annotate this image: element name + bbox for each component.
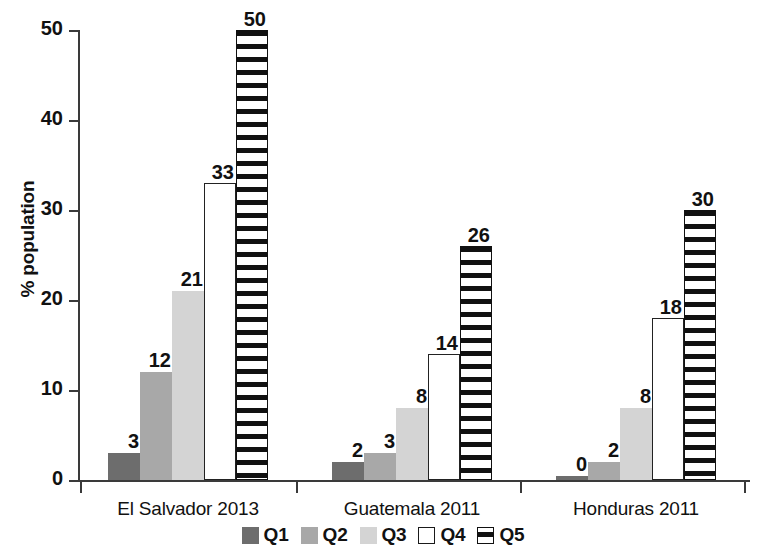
- legend-swatch-q1-icon: [242, 527, 259, 544]
- bar-el-salvador-q1: 3: [108, 453, 140, 480]
- x-tick-left-edge: [80, 482, 82, 493]
- group-label-guatemala: Guatemala 2011: [332, 498, 492, 520]
- bar-value-guatemala-q3: 8: [416, 386, 427, 406]
- bar-el-salvador-q3: 21: [172, 291, 204, 480]
- bar-value-honduras-q5: 30: [692, 189, 714, 209]
- legend-label-q4: Q4: [440, 524, 465, 546]
- y-tick-label-40: 40: [41, 107, 63, 130]
- legend: Q1 Q2 Q3 Q4 Q5: [0, 524, 766, 546]
- group-label-honduras: Honduras 2011: [556, 498, 716, 520]
- y-tick-label-50: 50: [41, 17, 63, 40]
- bar-value-el-salvador-q3: 21: [181, 269, 203, 289]
- y-tick-50: 50: [69, 30, 78, 32]
- x-tick-right-edge: [744, 482, 746, 493]
- bar-value-honduras-q4: 18: [660, 297, 682, 317]
- y-tick-40: 40: [69, 120, 78, 122]
- bar-value-el-salvador-q1: 3: [128, 431, 139, 451]
- bar-value-guatemala-q1: 2: [352, 440, 363, 460]
- y-tick-label-20: 20: [41, 287, 63, 310]
- bar-guatemala-q4: 14: [428, 354, 460, 480]
- y-tick-30: 30: [69, 210, 78, 212]
- bar-el-salvador-q5: 50: [236, 30, 268, 480]
- y-axis-line: [78, 30, 80, 481]
- group-label-el-salvador: El Salvador 2013: [108, 498, 268, 520]
- bar-chart: % population 0 10 20 30 40 50 3: [0, 0, 766, 555]
- y-tick-0: 0: [69, 480, 78, 482]
- bar-honduras-q4: 18: [652, 318, 684, 480]
- y-axis-title: % population: [17, 159, 39, 319]
- legend-swatch-q2-icon: [301, 527, 318, 544]
- y-tick-label-30: 30: [41, 197, 63, 220]
- legend-label-q3: Q3: [382, 524, 407, 546]
- legend-item-q5[interactable]: Q5: [477, 524, 524, 546]
- y-tick-20: 20: [69, 300, 78, 302]
- legend-swatch-q5-icon: [477, 527, 494, 544]
- legend-label-q5: Q5: [499, 524, 524, 546]
- bar-el-salvador-q4: 33: [204, 183, 236, 480]
- y-tick-10: 10: [69, 390, 78, 392]
- legend-swatch-q3-icon: [360, 527, 377, 544]
- bar-guatemala-q5: 26: [460, 246, 492, 480]
- bar-value-guatemala-q5: 26: [468, 225, 490, 245]
- x-tick-group-0-1: [296, 482, 298, 493]
- y-tick-label-0: 0: [52, 467, 63, 490]
- bar-honduras-q1: 0: [556, 476, 588, 480]
- legend-item-q2[interactable]: Q2: [301, 524, 348, 546]
- bar-value-el-salvador-q2: 12: [149, 350, 171, 370]
- legend-label-q2: Q2: [323, 524, 348, 546]
- bar-guatemala-q3: 8: [396, 408, 428, 480]
- legend-item-q1[interactable]: Q1: [242, 524, 289, 546]
- legend-swatch-q4-icon: [418, 527, 435, 544]
- bar-value-el-salvador-q4: 33: [212, 162, 234, 182]
- bar-honduras-q5: 30: [684, 210, 716, 480]
- plot-area: 0 10 20 30 40 50 3 12 21: [78, 30, 750, 481]
- bar-value-honduras-q2: 2: [608, 440, 619, 460]
- bar-el-salvador-q2: 12: [140, 372, 172, 480]
- x-tick-group-1-2: [520, 482, 522, 493]
- bar-guatemala-q2: 3: [364, 453, 396, 480]
- bar-honduras-q2: 2: [588, 462, 620, 480]
- bar-value-honduras-q1: 0: [576, 454, 587, 474]
- bar-value-el-salvador-q5: 50: [244, 9, 266, 29]
- bar-honduras-q3: 8: [620, 408, 652, 480]
- bar-value-honduras-q3: 8: [640, 386, 651, 406]
- legend-item-q3[interactable]: Q3: [360, 524, 407, 546]
- bar-value-guatemala-q2: 3: [384, 431, 395, 451]
- legend-item-q4[interactable]: Q4: [418, 524, 465, 546]
- legend-label-q1: Q1: [264, 524, 289, 546]
- x-axis-line: [78, 480, 750, 482]
- y-tick-label-10: 10: [41, 377, 63, 400]
- bar-value-guatemala-q4: 14: [436, 333, 458, 353]
- bar-guatemala-q1: 2: [332, 462, 364, 480]
